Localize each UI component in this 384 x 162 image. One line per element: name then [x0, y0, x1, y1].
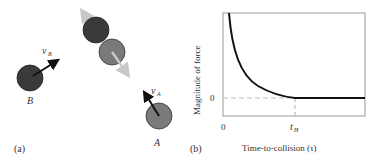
- panel-a-label: (a): [14, 143, 25, 155]
- agent-b: v B B: [17, 45, 55, 106]
- svg-text:B: B: [48, 51, 52, 57]
- x-tick-th: t: [290, 121, 293, 132]
- agent-b-label: B: [27, 95, 33, 106]
- x-tick-zero: 0: [221, 122, 226, 132]
- agent-a: v A A: [146, 85, 172, 148]
- y-tick-zero: 0: [210, 93, 215, 103]
- x-axis-label: Time-to-collision (τ): [242, 143, 317, 153]
- colliding-pair: [83, 14, 126, 72]
- force-curve: [229, 13, 365, 98]
- agent-a-label: A: [153, 137, 161, 148]
- svg-text:A: A: [156, 91, 161, 97]
- svg-text:H: H: [293, 127, 299, 133]
- velocity-b-label: v: [42, 45, 47, 56]
- velocity-a-label: v: [151, 85, 156, 96]
- y-axis-label: Magnitude of force: [192, 46, 202, 115]
- figure: v B B v A A (a) (b) Magnitude of force 0…: [0, 0, 384, 162]
- plot-frame: [223, 13, 365, 116]
- panel-b-label: (b): [190, 143, 202, 155]
